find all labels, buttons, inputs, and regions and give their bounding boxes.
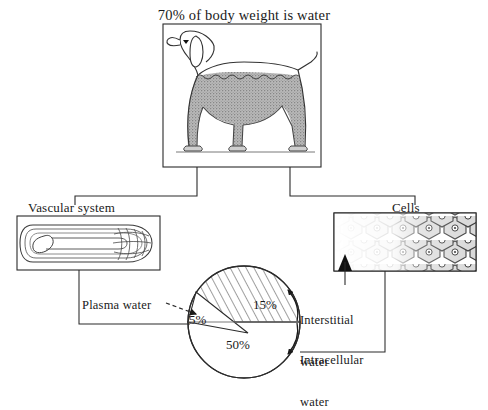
pie-label-intracellular: 50%: [226, 337, 250, 353]
vascular-panel: [17, 216, 160, 270]
blood-vessel-icon: [20, 225, 152, 262]
dog-panel: [163, 24, 321, 167]
vascular-system-label: Vascular system: [28, 201, 115, 216]
cells-panel: [334, 213, 476, 271]
leader-plasma: [79, 270, 196, 324]
pie-label-plasma: 5%: [189, 312, 206, 328]
cell-tissue-icon: [334, 213, 476, 271]
cells-label: Cells: [392, 201, 420, 216]
intracellular-water-label: Intracellular water: [300, 325, 364, 410]
intracellular-water-line1: Intracellular: [300, 353, 364, 367]
pie-label-interstitial: 15%: [253, 297, 277, 313]
plasma-water-label: Plasma water: [82, 298, 151, 312]
intracellular-water-line2: water: [300, 395, 364, 409]
page-title: 70% of body weight is water: [0, 7, 488, 23]
